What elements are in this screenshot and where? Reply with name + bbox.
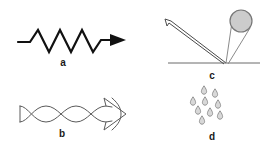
outgoing-trajectory-edge-2 <box>228 28 250 64</box>
raindrop-icon <box>202 97 207 105</box>
raindrop-icon <box>199 116 204 124</box>
panel-a: a <box>0 0 134 76</box>
panel-a-label: a <box>53 57 73 68</box>
panel-b-label: b <box>52 128 72 139</box>
panel-c-label: c <box>202 70 222 81</box>
twisted-ribbon-arrow-graphic <box>0 76 134 152</box>
incoming-trajectory-edge-1 <box>171 21 226 63</box>
raindrop-icon <box>215 100 220 108</box>
panel-d-label: d <box>202 131 222 142</box>
raindrop-icon <box>207 108 212 116</box>
zigzag-wave-path <box>18 30 112 52</box>
raindrop-icon <box>201 86 206 94</box>
raindrop-icon <box>195 106 200 114</box>
ribbon-arrowhead-notch <box>112 98 121 130</box>
scientific-figure: a b <box>0 0 268 152</box>
ball-icon <box>230 10 252 32</box>
raindrop-icon <box>217 111 222 119</box>
panel-b: b <box>0 76 134 152</box>
outgoing-trajectory-edge-1 <box>226 22 232 63</box>
raindrops-graphic <box>134 84 268 152</box>
incoming-trajectory-tip <box>165 19 171 26</box>
bouncing-ball-graphic <box>134 0 268 84</box>
raindrop-icon <box>190 97 195 105</box>
ribbon-arrowhead-outline <box>104 98 126 130</box>
arrowhead-icon <box>110 34 126 46</box>
panel-d: d <box>134 84 268 152</box>
panel-c: c <box>134 0 268 84</box>
incoming-trajectory-edge-2 <box>169 23 224 64</box>
raindrop-icon <box>212 89 217 97</box>
